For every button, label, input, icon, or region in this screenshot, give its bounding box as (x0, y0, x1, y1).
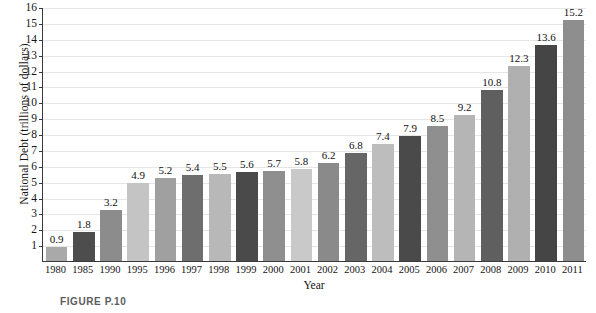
bar-value-label: 7.4 (376, 131, 390, 142)
bar: 4.9 (127, 183, 149, 261)
bar: 15.2 (563, 20, 585, 261)
plot-area: 12345678910111213141516 0.91.83.24.95.25… (42, 8, 586, 262)
x-tick-label: 2009 (508, 265, 529, 276)
bar: 8.5 (427, 126, 449, 261)
x-tick-label: 2001 (290, 265, 311, 276)
x-tick-label: 2008 (480, 265, 501, 276)
x-tick-label: 2002 (317, 265, 338, 276)
y-tick-label: 8 (31, 129, 37, 141)
bar-value-label: 15.2 (564, 7, 583, 18)
x-tick-label: 1985 (72, 265, 93, 276)
bar: 10.8 (481, 90, 503, 261)
x-axis-title: Year (42, 279, 586, 291)
y-tick-label: 13 (26, 50, 38, 62)
y-tick-label: 14 (26, 34, 38, 46)
bar-value-label: 4.9 (131, 170, 145, 181)
bar: 0.9 (46, 247, 68, 261)
y-tick-label: 1 (31, 240, 37, 252)
bar: 6.8 (345, 153, 367, 261)
bar-value-label: 5.5 (213, 161, 227, 172)
bar: 1.8 (73, 232, 95, 261)
y-tick-label: 5 (31, 177, 37, 189)
bar: 7.9 (399, 136, 421, 261)
bar-series: 0.91.83.24.95.25.45.55.65.75.86.26.87.47… (43, 8, 586, 261)
y-tick-label: 6 (31, 161, 37, 173)
x-tick-label: 2007 (453, 265, 474, 276)
bar: 5.6 (236, 172, 258, 261)
bar-value-label: 10.8 (482, 77, 501, 88)
x-tick-label: 1980 (45, 265, 66, 276)
bar: 5.5 (209, 174, 231, 261)
x-tick-label: 2010 (535, 265, 556, 276)
figure-national-debt-bar-chart: National Debt (trillions of dollars) 123… (0, 0, 596, 313)
bar-value-label: 6.2 (322, 150, 336, 161)
bar-value-label: 9.2 (458, 102, 472, 113)
y-tick-label: 4 (31, 193, 37, 205)
bar: 5.8 (291, 169, 313, 261)
bar: 5.7 (263, 171, 285, 261)
x-tick-label: 1995 (127, 265, 148, 276)
y-tick-label: 9 (31, 113, 37, 125)
bar: 7.4 (372, 144, 394, 261)
bar: 5.4 (182, 175, 204, 261)
bar: 6.2 (318, 163, 340, 261)
y-tick-label: 10 (26, 98, 38, 110)
x-tick-label: 2006 (426, 265, 447, 276)
bar: 13.6 (535, 45, 557, 261)
bar-value-label: 5.8 (295, 156, 309, 167)
x-tick-label: 2004 (372, 265, 393, 276)
x-tick-label: 2011 (562, 265, 583, 276)
y-tick-label: 3 (31, 209, 37, 221)
y-tick-label: 15 (26, 18, 38, 30)
x-tick-label: 1998 (208, 265, 229, 276)
bar-value-label: 5.2 (159, 165, 173, 176)
bar: 5.2 (155, 178, 177, 261)
bar-value-label: 5.4 (186, 162, 200, 173)
x-tick-label: 1997 (181, 265, 202, 276)
bar-value-label: 6.8 (349, 140, 363, 151)
bar-value-label: 3.2 (104, 197, 118, 208)
y-tick-label: 12 (26, 66, 38, 78)
bar-value-label: 5.6 (240, 159, 254, 170)
y-tick-label: 7 (31, 145, 37, 157)
bar-value-label: 1.8 (77, 219, 91, 230)
x-tick-label: 2003 (344, 265, 365, 276)
bar-value-label: 7.9 (403, 123, 417, 134)
bar-value-label: 12.3 (509, 53, 528, 64)
x-tick-label: 1996 (154, 265, 175, 276)
bar: 9.2 (454, 115, 476, 261)
bar-value-label: 8.5 (431, 113, 445, 124)
bar: 12.3 (508, 66, 530, 261)
bar: 3.2 (100, 210, 122, 261)
y-tick-label: 16 (26, 2, 38, 14)
bar-value-label: 0.9 (50, 234, 64, 245)
x-tick-label: 1990 (100, 265, 121, 276)
y-tick-label: 2 (31, 225, 37, 237)
bar-value-label: 5.7 (267, 158, 281, 169)
bar-value-label: 13.6 (537, 32, 556, 43)
x-tick-label: 2005 (399, 265, 420, 276)
y-tick-label: 11 (26, 82, 37, 94)
x-tick-label: 1999 (236, 265, 257, 276)
figure-caption: FIGURE P.10 (60, 296, 126, 307)
x-tick-label: 2000 (263, 265, 284, 276)
